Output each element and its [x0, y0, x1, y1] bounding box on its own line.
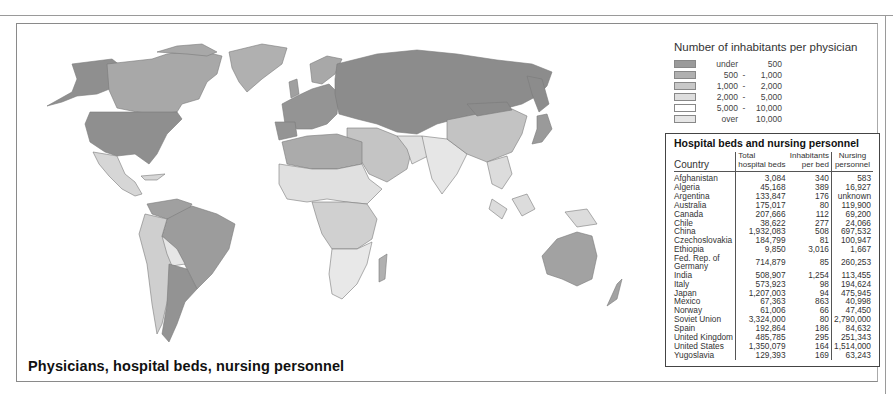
- cell-country: Fed. Rep. ofGermany: [674, 254, 736, 271]
- legend-hi: 2,000: [750, 81, 782, 91]
- legend-sep: -: [738, 70, 750, 80]
- header-inhabitants-per-bed: Inhabitantsper bed: [788, 152, 832, 172]
- region-iberia: [275, 122, 297, 140]
- legend-swatch: [674, 93, 696, 101]
- cell-total-beds: 129,393: [736, 351, 788, 360]
- legend-lo: under: [706, 59, 738, 69]
- legend-swatch: [674, 115, 696, 123]
- legend-item: under 500: [674, 58, 857, 69]
- legend-swatch: [674, 104, 696, 112]
- cell-nursing: 63,243: [831, 351, 873, 360]
- cell-inhabitants-per-bed: 3,016: [788, 245, 832, 254]
- legend-item: 500 - 1,000: [674, 69, 857, 80]
- table-row: Fed. Rep. ofGermany714,87985260,253: [674, 254, 873, 271]
- legend-lo: 5,000: [706, 103, 738, 113]
- region-mexico: [93, 152, 142, 196]
- region-australia: [542, 232, 597, 286]
- header-country: Country: [674, 152, 736, 172]
- legend-swatch: [674, 82, 696, 90]
- cell-total-beds: 714,879: [736, 254, 788, 271]
- region-central-africa: [312, 202, 377, 249]
- legend-hi: 1,000: [750, 70, 782, 80]
- legend-hi: 10,000: [750, 114, 782, 124]
- hospital-table-box: Hospital beds and nursing personnel Coun…: [665, 133, 880, 367]
- legend-swatch: [674, 60, 696, 68]
- world-map: [17, 24, 657, 344]
- legend-sep: -: [738, 81, 750, 91]
- cell-total-beds: 9,850: [736, 245, 788, 254]
- cell-country: Yugoslavia: [674, 351, 736, 360]
- legend-hi: 5,000: [750, 92, 782, 102]
- cell-nursing: 1,667: [831, 245, 873, 254]
- table-header-row: Country Totalhospital beds Inhabitantspe…: [674, 152, 873, 172]
- table-title: Hospital beds and nursing personnel: [674, 137, 873, 149]
- region-southern-africa: [329, 242, 372, 299]
- legend-title: Number of inhabitants per physician: [674, 41, 857, 53]
- region-southeast-asia: [487, 156, 512, 189]
- hospital-table: Country Totalhospital beds Inhabitantspe…: [674, 152, 873, 360]
- cell-inhabitants-per-bed: 85: [788, 254, 832, 271]
- region-canada: [107, 50, 222, 114]
- legend-hi: 10,000: [750, 103, 782, 113]
- region-uk: [289, 79, 299, 98]
- header-total-beds: Totalhospital beds: [736, 152, 788, 172]
- table-row: Yugoslavia129,39316963,243: [674, 351, 873, 360]
- legend-lo: 1,000: [706, 81, 738, 91]
- header-nursing: Nursingpersonnel: [831, 152, 873, 172]
- legend-item: over 10,000: [674, 113, 857, 124]
- legend-lo: over: [706, 114, 738, 124]
- region-japan: [532, 114, 552, 144]
- cell-nursing: 260,253: [831, 254, 873, 271]
- right-rule: [885, 15, 886, 394]
- map-title: Physicians, hospital beds, nursing perso…: [28, 358, 344, 374]
- legend-item: 1,000 - 2,000: [674, 80, 857, 91]
- region-new-guinea: [565, 209, 597, 227]
- region-greenland: [229, 44, 287, 92]
- region-madagascar: [379, 254, 387, 282]
- region-new-zealand: [607, 279, 622, 306]
- legend-sep: -: [738, 92, 750, 102]
- cell-inhabitants-per-bed: 169: [788, 351, 832, 360]
- legend-lo: 500: [706, 70, 738, 80]
- legend-sep: -: [738, 103, 750, 113]
- top-rule: [0, 15, 893, 16]
- legend-item: 2,000 - 5,000: [674, 91, 857, 102]
- legend-item: 5,000 - 10,000: [674, 102, 857, 113]
- legend: Number of inhabitants per physician unde…: [674, 41, 857, 124]
- legend-lo: 2,000: [706, 92, 738, 102]
- legend-swatch: [674, 71, 696, 79]
- region-north-africa: [282, 134, 362, 169]
- legend-hi: 500: [750, 59, 782, 69]
